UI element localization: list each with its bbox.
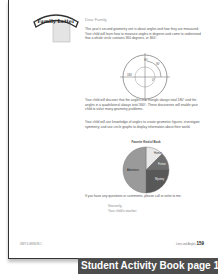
letter-paragraph: This year's second geometry unit is abou… xyxy=(85,27,205,41)
svg-text:Mystery: Mystery xyxy=(155,177,165,181)
page-number: 159 xyxy=(196,241,204,246)
svg-text:90°: 90° xyxy=(144,58,148,62)
letter-greeting: Dear Family, xyxy=(85,17,107,22)
caption-bar: Student Activity Book page 159 xyxy=(78,258,218,274)
letter-paragraph: Your child will discover that the angles… xyxy=(85,98,205,112)
svg-text:180°: 180° xyxy=(127,73,132,77)
svg-text:Family Letter: Family Letter xyxy=(37,18,75,25)
signature-text: Your child's teacher xyxy=(108,209,137,214)
letter-signoff: Sincerely, Your child's teacher xyxy=(108,204,137,213)
svg-text:0°: 0° xyxy=(152,78,154,82)
family-letter-badge: Family Letter xyxy=(32,10,80,44)
angle-circle-diagram: 90° 90° 180° 0° xyxy=(118,52,172,102)
pie-chart: Humor Fiction Mystery Adventure xyxy=(118,144,174,196)
letter-closing: If you have any questions or comments, p… xyxy=(85,194,182,198)
footer-page-info: Lines and Angles 159 xyxy=(176,241,204,246)
svg-text:Adventure: Adventure xyxy=(127,168,139,172)
letter-paragraph: Your child will use knowledge of angles … xyxy=(85,120,205,129)
footer-unit-lesson: UNIT 6 LESSON 1 xyxy=(20,243,42,246)
svg-text:90°: 90° xyxy=(156,62,160,66)
svg-text:Humor: Humor xyxy=(154,151,162,155)
svg-text:Fiction: Fiction xyxy=(158,162,166,166)
footer-section-title: Lines and Angles xyxy=(176,243,196,246)
